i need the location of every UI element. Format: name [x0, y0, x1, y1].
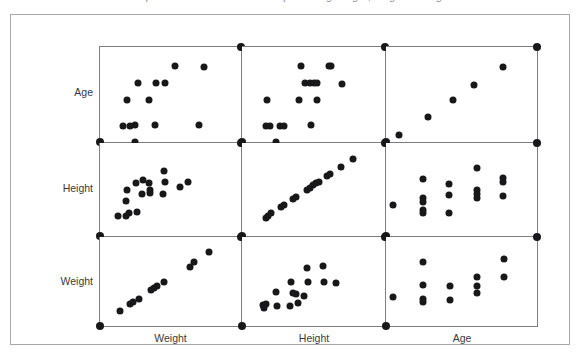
column-axis-labels: Weight Height Age	[99, 332, 538, 348]
data-point	[446, 181, 453, 188]
data-point	[262, 214, 269, 221]
data-point	[161, 178, 168, 185]
axis-extreme-marker	[382, 322, 390, 330]
data-point	[261, 304, 268, 311]
data-point	[304, 186, 311, 193]
data-point	[324, 173, 331, 180]
data-point	[161, 278, 168, 285]
axis-extreme-marker	[533, 233, 541, 241]
data-point	[147, 186, 154, 193]
data-point	[186, 263, 193, 270]
row-axis-labels: Age Height Weight	[19, 46, 93, 327]
data-point	[447, 282, 454, 289]
data-point	[474, 186, 481, 193]
panel-weight-vs-height[interactable]	[242, 237, 386, 327]
data-point	[145, 180, 152, 187]
data-point	[130, 299, 137, 306]
data-point	[124, 97, 131, 104]
data-point	[446, 192, 453, 199]
data-point	[151, 285, 158, 292]
data-point	[301, 80, 308, 87]
data-point	[132, 180, 139, 187]
data-point	[314, 80, 321, 87]
data-point	[295, 299, 302, 306]
data-point	[190, 259, 197, 266]
data-point	[276, 122, 283, 129]
splom-row-weight	[99, 237, 538, 327]
data-point	[424, 114, 431, 121]
data-point	[419, 194, 426, 201]
data-point	[339, 81, 346, 88]
data-point	[185, 178, 192, 185]
data-point	[206, 248, 213, 255]
data-point	[395, 131, 402, 138]
axis-extreme-marker	[96, 322, 104, 330]
data-point	[264, 97, 271, 104]
data-point	[310, 80, 317, 87]
panel-weight-vs-weight[interactable]	[99, 237, 242, 327]
panel-weight-vs-age[interactable]	[386, 237, 538, 327]
panel-height-vs-age[interactable]	[386, 143, 538, 237]
row-label-weight: Weight	[23, 275, 93, 287]
data-point	[154, 283, 161, 290]
data-point	[262, 122, 269, 129]
data-point	[288, 278, 295, 285]
data-point	[500, 256, 507, 263]
axis-extreme-marker	[533, 139, 541, 147]
data-point	[114, 213, 121, 220]
data-point	[500, 63, 507, 70]
axis-extreme-marker	[533, 43, 541, 51]
data-point	[319, 262, 326, 269]
data-point	[117, 307, 124, 314]
data-point	[161, 80, 168, 87]
data-point	[259, 302, 266, 309]
data-point	[286, 302, 293, 309]
data-point	[349, 156, 356, 163]
data-point	[268, 210, 275, 217]
data-point	[298, 63, 305, 70]
data-point	[125, 210, 132, 217]
panel-height-vs-weight[interactable]	[99, 143, 242, 237]
data-point	[200, 63, 207, 70]
data-point	[306, 80, 313, 87]
data-point	[447, 296, 454, 303]
panel-age-vs-height[interactable]	[242, 46, 386, 143]
data-point	[474, 190, 481, 197]
row-label-height: Height	[23, 182, 93, 194]
data-point	[123, 212, 130, 219]
data-point	[304, 264, 311, 271]
data-point	[127, 122, 134, 129]
data-point	[471, 82, 478, 89]
figure-caption: Scatterplot matrix of the relationships …	[110, 0, 448, 2]
data-point	[474, 273, 481, 280]
data-point	[450, 97, 457, 104]
data-point	[314, 97, 321, 104]
panel-height-vs-height[interactable]	[242, 143, 386, 237]
panel-age-vs-age[interactable]	[386, 46, 538, 143]
data-point	[145, 97, 152, 104]
data-point	[138, 191, 145, 198]
data-point	[500, 178, 507, 185]
data-point	[389, 294, 396, 301]
data-point	[326, 63, 333, 70]
data-point	[140, 177, 147, 184]
data-point	[315, 178, 322, 185]
figure-frame: Age Height Weight Weight Height Age	[10, 14, 570, 345]
splom-row-age	[99, 46, 538, 143]
col-label-height: Height	[242, 332, 386, 344]
data-point	[301, 293, 308, 300]
data-point	[321, 279, 328, 286]
data-point	[176, 183, 183, 190]
data-point	[135, 80, 142, 87]
data-point	[446, 209, 453, 216]
data-point	[328, 63, 335, 70]
splom-row-height	[99, 143, 538, 237]
panel-age-vs-weight[interactable]	[99, 46, 242, 143]
row-label-age: Age	[23, 86, 93, 98]
figure-caption-strip: Scatterplot matrix of the relationships …	[0, 0, 581, 9]
data-point	[326, 171, 333, 178]
data-point	[278, 203, 285, 210]
data-point	[263, 301, 270, 308]
data-point	[419, 210, 426, 217]
data-point	[500, 192, 507, 199]
